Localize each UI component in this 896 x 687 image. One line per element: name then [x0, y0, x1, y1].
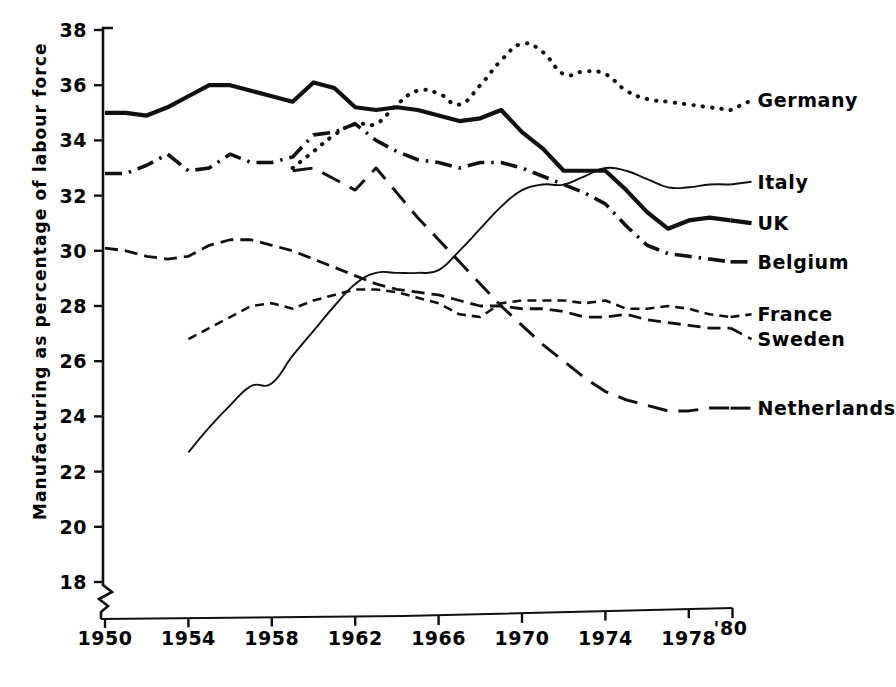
series-label-france: France [758, 303, 833, 325]
x-tick-label-1958: 1958 [244, 627, 299, 649]
y-tick-label-20: 20 [45, 516, 87, 538]
series-line-france [188, 289, 730, 339]
series-group [105, 43, 752, 452]
x-tick-label-80: '80 [714, 617, 748, 639]
series-leader-italy [731, 182, 752, 185]
x-tick-label-1978: 1978 [661, 627, 716, 649]
series-label-italy: Italy [758, 171, 809, 193]
series-line-sweden [105, 240, 731, 328]
series-label-germany: Germany [758, 89, 859, 111]
y-tick-label-38: 38 [45, 19, 87, 41]
series-leader-sweden [731, 328, 752, 339]
y-tick-label-22: 22 [45, 461, 87, 483]
y-tick-label-28: 28 [45, 295, 87, 317]
y-tick-label-34: 34 [45, 129, 87, 151]
x-tick-label-1974: 1974 [578, 627, 633, 649]
series-label-belgium: Belgium [758, 251, 850, 273]
y-tick-label-18: 18 [45, 571, 87, 593]
y-axis-line [99, 28, 113, 619]
series-leader-uk [731, 220, 752, 223]
series-label-uk: UK [758, 212, 789, 234]
series-line-uk [105, 82, 731, 228]
y-tick-label-36: 36 [45, 74, 87, 96]
y-tick-label-26: 26 [45, 350, 87, 372]
y-tick-label-24: 24 [45, 405, 87, 427]
y-tick-label-30: 30 [45, 240, 87, 262]
x-tick-label-1966: 1966 [411, 627, 466, 649]
x-axis-line [101, 608, 733, 619]
series-line-italy [188, 168, 730, 453]
x-tick-label-1962: 1962 [328, 627, 383, 649]
series-leader-germany [731, 100, 752, 110]
axes-group [94, 28, 733, 628]
series-label-netherlands: Netherlands [758, 397, 896, 419]
series-line-belgium [105, 124, 731, 262]
x-tick-label-1954: 1954 [161, 627, 216, 649]
x-tick-label-1970: 1970 [495, 627, 550, 649]
series-label-sweden: Sweden [758, 328, 846, 350]
y-tick-label-32: 32 [45, 185, 87, 207]
series-leader-france [731, 314, 752, 317]
x-tick-label-1950: 1950 [78, 627, 133, 649]
